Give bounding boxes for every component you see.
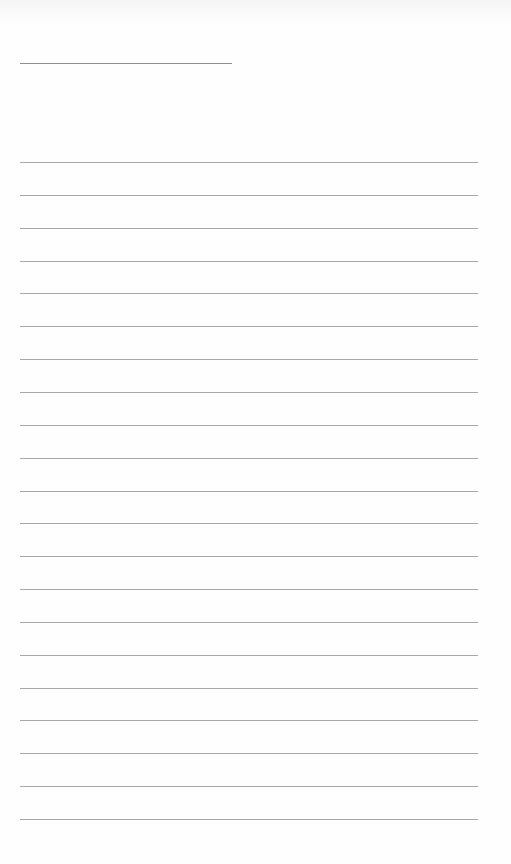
ruled-line xyxy=(20,491,478,492)
ruled-line xyxy=(20,359,478,360)
ruled-line xyxy=(20,753,478,754)
ruled-line xyxy=(20,293,478,294)
ruled-line xyxy=(20,622,478,623)
ruled-line xyxy=(20,819,478,820)
ruled-line xyxy=(20,655,478,656)
ruled-line xyxy=(20,556,478,557)
header-blank-line xyxy=(20,63,232,64)
lined-paper-page xyxy=(0,0,511,864)
ruled-line xyxy=(20,589,478,590)
ruled-line xyxy=(20,326,478,327)
ruled-line xyxy=(20,195,478,196)
ruled-line xyxy=(20,162,478,163)
ruled-line xyxy=(20,786,478,787)
ruled-line xyxy=(20,228,478,229)
ruled-line xyxy=(20,688,478,689)
ruled-line xyxy=(20,720,478,721)
ruled-line xyxy=(20,425,478,426)
ruled-line xyxy=(20,392,478,393)
ruled-line xyxy=(20,523,478,524)
ruled-line xyxy=(20,458,478,459)
ruled-line xyxy=(20,261,478,262)
bleed-through-shadow xyxy=(0,0,511,24)
